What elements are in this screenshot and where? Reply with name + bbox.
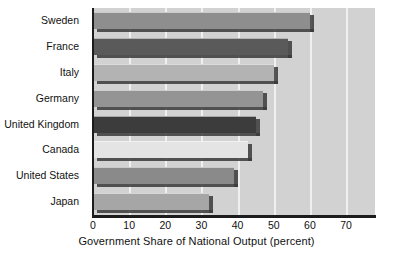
bar-shadow [97,107,267,110]
bar-shadow [248,144,252,161]
bar-france [93,38,288,55]
y-axis-category-labels: SwedenFranceItalyGermanyUnited KingdomCa… [0,8,88,215]
bar-sweden [93,12,310,29]
bar-shadow [274,67,278,84]
bar-shadow [97,210,213,213]
x-tick-label-60: 60 [304,219,316,231]
x-tick-label-30: 30 [196,219,208,231]
bar-shadow [288,41,292,58]
x-tick-label-10: 10 [123,219,135,231]
bar-shadow [97,55,292,58]
x-tick-label-0: 0 [90,219,96,231]
x-axis-line [92,215,376,218]
x-tick-label-70: 70 [340,219,352,231]
gridline-70 [346,8,348,215]
bar-shadow [97,133,260,136]
gridline-60 [310,8,312,215]
y-axis-line [92,8,94,216]
x-axis-title: Government Share of National Output (per… [0,235,393,247]
bar-italy [93,64,274,81]
category-label-italy: Italy [60,66,79,78]
bar-united-kingdom [93,116,256,133]
category-label-japan: Japan [50,195,79,207]
bar-shadow [209,196,213,213]
bar-shadow [263,93,267,110]
bar-shadow [234,170,238,187]
category-label-france: France [46,40,79,52]
bar-shadow [97,158,252,161]
bar-united-states [93,167,234,184]
category-label-canada: Canada [42,143,79,155]
category-label-germany: Germany [36,92,79,104]
bar-shadow [97,29,314,32]
bar-canada [93,141,248,158]
bar-shadow [310,15,314,32]
bar-japan [93,193,209,210]
bar-chart: SwedenFranceItalyGermanyUnited KingdomCa… [0,0,393,255]
bar-shadow [256,119,260,136]
x-tick-label-20: 20 [159,219,171,231]
bar-shadow [97,184,238,187]
bar-shadow [97,81,278,84]
x-tick-label-40: 40 [232,219,244,231]
x-tick-label-50: 50 [268,219,280,231]
category-label-sweden: Sweden [41,14,79,26]
bar-germany [93,90,263,107]
category-label-united-states: United States [16,169,79,181]
category-label-united-kingdom: United Kingdom [4,118,79,130]
